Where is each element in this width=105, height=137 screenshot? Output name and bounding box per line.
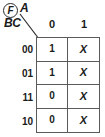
kmap-cell: X xyxy=(68,109,99,133)
kmap-cell: X xyxy=(68,62,99,86)
kmap-cell: 1 xyxy=(37,38,68,62)
kmap-cell: X xyxy=(68,38,99,62)
row-header-01: 01 xyxy=(6,62,33,86)
column-variable-label: A xyxy=(20,2,29,14)
kmap-cell: 0 xyxy=(37,109,68,133)
kmap-grid: 1 X 1 X 0 X 0 X xyxy=(36,37,100,133)
row-header-11: 11 xyxy=(6,86,33,110)
column-header-0: 0 xyxy=(36,19,68,30)
kmap-cell: 1 xyxy=(37,62,68,86)
row-variable-label: BC xyxy=(4,17,21,29)
column-header-1: 1 xyxy=(68,19,100,30)
kmap-cell: 0 xyxy=(37,85,68,109)
kmap-cell: X xyxy=(68,85,99,109)
row-header-10: 10 xyxy=(6,110,33,134)
karnaugh-map-figure: F A BC 0 1 00 01 11 10 1 X 1 X 0 X 0 X xyxy=(0,0,105,137)
row-header-00: 00 xyxy=(6,38,33,62)
